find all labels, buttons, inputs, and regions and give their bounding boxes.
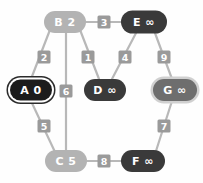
node-label-g: G ∞ xyxy=(163,84,187,97)
edge-weight-label-c-f: 8 xyxy=(98,155,111,168)
node-label-a: A 0 xyxy=(20,84,42,97)
node-a[interactable]: A 0 xyxy=(7,76,56,104)
edge-weight-text: 2 xyxy=(41,52,48,63)
node-label-c: C 5 xyxy=(55,155,76,168)
edge-weight-label-d-e: 4 xyxy=(119,51,132,64)
node-label-b: B 2 xyxy=(54,16,75,29)
graph-canvas: 321649578 A 0B 2C 5D ∞E ∞F ∞G ∞ xyxy=(0,0,203,183)
edge-weight-label-b-d: 1 xyxy=(82,51,95,64)
node-g[interactable]: G ∞ xyxy=(151,77,200,104)
node-c[interactable]: C 5 xyxy=(45,150,87,172)
edge-weight-text: 1 xyxy=(85,52,92,63)
edge-weight-label-a-b: 2 xyxy=(38,51,51,64)
node-f[interactable]: F ∞ xyxy=(121,150,165,172)
nodes-layer: A 0B 2C 5D ∞E ∞F ∞G ∞ xyxy=(7,11,200,173)
node-label-f: F ∞ xyxy=(132,155,154,168)
node-label-d: D ∞ xyxy=(93,84,117,97)
edge-weight-text: 8 xyxy=(101,156,108,167)
edge-weight-label-e-g: 9 xyxy=(158,51,171,64)
node-b[interactable]: B 2 xyxy=(44,11,86,33)
edge-weight-text: 4 xyxy=(122,52,129,63)
edge-weight-label-b-c: 6 xyxy=(60,85,73,98)
edge-weight-text: 5 xyxy=(41,121,48,132)
edge-weight-label-b-e: 3 xyxy=(98,16,111,29)
node-d[interactable]: D ∞ xyxy=(84,79,126,101)
edge-weight-label-a-c: 5 xyxy=(38,120,51,133)
edge-weight-text: 6 xyxy=(63,86,70,97)
node-label-e: E ∞ xyxy=(133,16,155,29)
dijkstra-graph-svg: 321649578 A 0B 2C 5D ∞E ∞F ∞G ∞ xyxy=(0,0,203,183)
node-e[interactable]: E ∞ xyxy=(121,11,167,34)
edge-weight-text: 9 xyxy=(161,52,168,63)
edge-weight-text: 7 xyxy=(161,121,168,132)
edge-weight-label-f-g: 7 xyxy=(158,120,171,133)
edge-weight-text: 3 xyxy=(101,17,108,28)
